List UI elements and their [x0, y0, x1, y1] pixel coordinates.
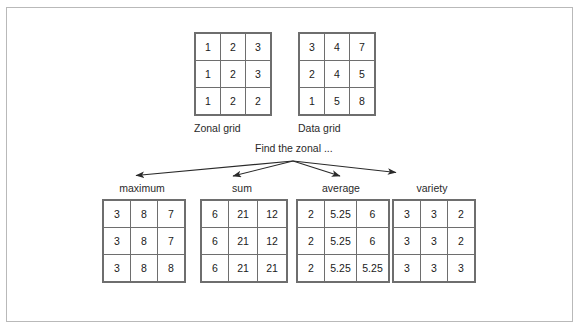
grid-cell: 3 [104, 228, 131, 255]
grid-cell: 2 [298, 201, 325, 228]
grid-cell: 3 [394, 228, 421, 255]
grid-cell: 3 [300, 34, 325, 61]
grid-cell: 3 [448, 255, 475, 282]
grid-cell: 12 [258, 228, 287, 255]
grid-cell: 3 [421, 201, 448, 228]
grid-row: 388 [104, 255, 185, 282]
grid-cell: 1 [196, 34, 221, 61]
grid-cell: 7 [158, 201, 185, 228]
grid-row: 332 [394, 228, 475, 255]
grid-cell: 8 [158, 255, 185, 282]
grid-cell: 1 [300, 88, 325, 115]
grid-cell: 7 [350, 34, 375, 61]
grid-cell: 8 [131, 201, 158, 228]
grid-cell: 7 [158, 228, 185, 255]
average-label: average [297, 182, 385, 194]
grid-cell: 5 [350, 61, 375, 88]
zonal-grid-caption: Zonal grid [194, 122, 241, 134]
grid-row: 123 [196, 34, 271, 61]
grid-row: 25.256 [298, 201, 389, 228]
grid-cell: 8 [350, 88, 375, 115]
grid-row: 123 [196, 61, 271, 88]
grid-cell: 1 [196, 61, 221, 88]
grid-cell: 12 [258, 201, 287, 228]
grid-row: 347 [300, 34, 375, 61]
grid-cell: 2 [246, 88, 271, 115]
grid-cell: 8 [131, 228, 158, 255]
data-grid: 347245158 [299, 33, 375, 115]
grid-cell: 2 [221, 88, 246, 115]
diagram-canvas: 123123122 Zonal grid 347245158 Data grid… [0, 0, 580, 330]
grid-cell: 6 [202, 228, 229, 255]
variety-grid: 332332333 [393, 200, 475, 282]
maximum-grid: 387387388 [103, 200, 185, 282]
grid-row: 25.255.25 [298, 255, 389, 282]
grid-cell: 1 [196, 88, 221, 115]
grid-cell: 6 [357, 201, 389, 228]
grid-row: 332 [394, 201, 475, 228]
grid-cell: 6 [357, 228, 389, 255]
grid-cell: 6 [202, 255, 229, 282]
grid-cell: 2 [300, 61, 325, 88]
grid-row: 158 [300, 88, 375, 115]
grid-cell: 4 [325, 34, 350, 61]
grid-cell: 21 [229, 228, 258, 255]
grid-cell: 2 [221, 61, 246, 88]
grid-cell: 3 [104, 201, 131, 228]
grid-row: 62112 [202, 228, 287, 255]
sum-grid: 621126211262121 [201, 200, 287, 282]
grid-cell: 5.25 [325, 201, 357, 228]
grid-cell: 2 [298, 228, 325, 255]
grid-cell: 21 [258, 255, 287, 282]
grid-cell: 3 [421, 255, 448, 282]
grid-cell: 4 [325, 61, 350, 88]
grid-row: 333 [394, 255, 475, 282]
average-grid: 25.25625.25625.255.25 [297, 200, 389, 282]
grid-cell: 3 [394, 255, 421, 282]
grid-row: 62112 [202, 201, 287, 228]
grid-row: 245 [300, 61, 375, 88]
grid-cell: 5.25 [325, 255, 357, 282]
grid-cell: 2 [221, 34, 246, 61]
grid-cell: 3 [104, 255, 131, 282]
grid-row: 25.256 [298, 228, 389, 255]
data-grid-caption: Data grid [298, 122, 341, 134]
variety-label: variety [393, 182, 471, 194]
grid-cell: 2 [448, 228, 475, 255]
grid-row: 62121 [202, 255, 287, 282]
grid-row: 387 [104, 228, 185, 255]
grid-cell: 2 [298, 255, 325, 282]
grid-cell: 5.25 [357, 255, 389, 282]
grid-cell: 21 [229, 201, 258, 228]
grid-row: 122 [196, 88, 271, 115]
grid-cell: 5 [325, 88, 350, 115]
grid-cell: 6 [202, 201, 229, 228]
zonal-grid: 123123122 [195, 33, 271, 115]
grid-cell: 21 [229, 255, 258, 282]
grid-cell: 8 [131, 255, 158, 282]
sum-label: sum [201, 182, 283, 194]
grid-cell: 3 [246, 61, 271, 88]
center-question-text: Find the zonal ... [255, 142, 333, 154]
grid-row: 387 [104, 201, 185, 228]
maximum-label: maximum [103, 182, 181, 194]
diagram-frame [6, 7, 573, 322]
grid-cell: 3 [394, 201, 421, 228]
grid-cell: 3 [421, 228, 448, 255]
grid-cell: 2 [448, 201, 475, 228]
grid-cell: 3 [246, 34, 271, 61]
grid-cell: 5.25 [325, 228, 357, 255]
